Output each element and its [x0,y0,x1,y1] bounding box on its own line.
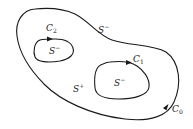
region-diagram [0,0,193,129]
label-s-inner-left: S− [49,45,60,56]
label-c2-base: C [46,23,53,33]
label-s-inner-left-sup: − [55,44,60,51]
label-s-inner-right-sup: − [120,76,125,83]
label-s-outer: S− [98,24,109,35]
label-c2: C2 [46,24,57,34]
label-s-inner-right: S− [114,77,125,88]
label-c1: C1 [133,55,144,65]
label-s-middle: S+ [73,83,84,94]
label-c2-sub: 2 [53,27,57,34]
arrow-icon-c2 [47,37,53,42]
arrow-icon-c0 [163,104,169,111]
label-c0-sub: 0 [179,108,183,115]
label-c1-base: C [133,54,140,64]
arrow-icon-c1 [126,60,132,65]
label-c1-sub: 1 [140,58,144,65]
label-s-middle-sup: + [79,82,84,89]
label-c0: C0 [172,105,183,115]
label-s-outer-sup: − [104,23,109,30]
label-c0-base: C [172,104,179,114]
